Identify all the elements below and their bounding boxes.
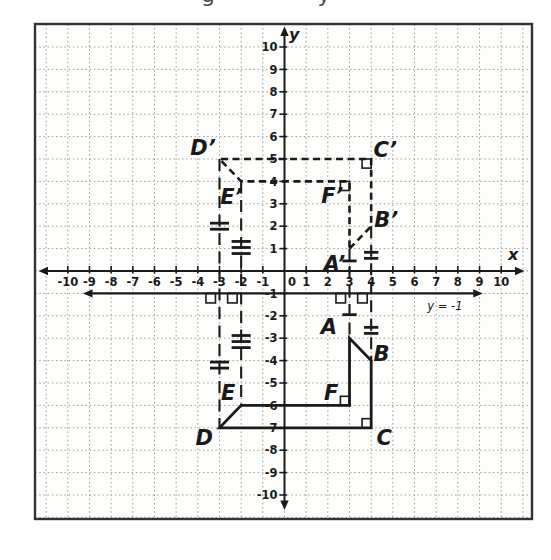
x-tick-label: 1	[302, 275, 310, 289]
y-tick-label: 10	[261, 40, 277, 54]
vertex-label-D: D	[196, 426, 213, 450]
cropped-caption-fragment-left: g	[201, 0, 215, 7]
vertex-label-E: E	[221, 381, 236, 405]
x-tick-label: 8	[454, 275, 462, 289]
y-tick-label: 8	[269, 85, 277, 99]
x-tick-label: -4	[191, 275, 204, 289]
y-tick-label: 1	[269, 242, 277, 256]
vertex-label-B-prime: B’	[374, 208, 398, 232]
x-tick-label: 7	[432, 275, 440, 289]
cropped-caption-fragment-right: y	[317, 0, 330, 7]
y-tick-label: 7	[269, 107, 277, 121]
y-tick-label: -9	[265, 466, 278, 480]
y-tick-label: 3	[269, 197, 277, 211]
y-tick-label: -4	[265, 354, 278, 368]
x-tick-label: 2	[324, 275, 332, 289]
vertex-label-F: F	[324, 381, 339, 405]
vertex-label-F-prime: F’	[321, 184, 343, 208]
x-tick-label: 6	[411, 275, 419, 289]
y-tick-label: -2	[265, 309, 278, 323]
y-tick-label: 9	[269, 63, 277, 77]
figure-container: -10-9-8-7-6-5-4-3-2-10123456789101098765…	[0, 0, 551, 560]
x-tick-label: -5	[170, 275, 183, 289]
y-tick-label: 6	[269, 130, 277, 144]
x-tick-label: -8	[105, 275, 118, 289]
y-tick-label: -5	[265, 376, 278, 390]
vertex-label-C-prime: C’	[374, 138, 397, 162]
vertex-label-C: C	[376, 426, 392, 450]
y-tick-label: -8	[265, 443, 278, 457]
vertex-label-D-prime: D’	[190, 136, 215, 160]
y-tick-label: 2	[269, 219, 277, 233]
vertex-label-B: B	[374, 342, 390, 366]
reflection-diagram: -10-9-8-7-6-5-4-3-2-10123456789101098765…	[0, 0, 551, 560]
vertex-label-A-prime: A’	[322, 252, 346, 276]
x-tick-label: 5	[389, 275, 397, 289]
x-tick-label: -9	[83, 275, 96, 289]
x-tick-label: -10	[57, 275, 78, 289]
origin-label: 0	[288, 275, 296, 289]
x-tick-label: 9	[476, 275, 484, 289]
x-tick-label: -6	[148, 275, 161, 289]
x-tick-label: -7	[126, 275, 139, 289]
x-axis-letter: x	[507, 245, 519, 264]
x-tick-label: 10	[493, 275, 509, 289]
y-axis-letter: y	[289, 25, 300, 44]
y-tick-label: -3	[265, 331, 278, 345]
vertex-label-E-prime: E’	[220, 185, 242, 209]
vertex-label-A: A	[319, 315, 337, 339]
y-tick-label: -10	[257, 488, 278, 502]
reflection-line-label: y = -1	[426, 299, 462, 313]
